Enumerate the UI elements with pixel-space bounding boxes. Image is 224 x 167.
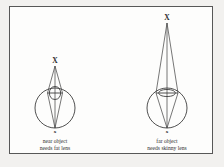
far-ray-incident-right [167,23,178,93]
optics-diagram: X x near object [0,0,224,167]
far-caption-line-2: needs skinny lens [147,145,186,151]
near-object-panel: X x near object [35,56,75,151]
near-image-label: x [54,129,57,134]
near-caption-line-1: near object [43,138,68,144]
figure-root: X x near object [0,0,224,167]
far-image-label: x [166,129,169,134]
near-refracted-rays [48,93,63,128]
far-object-label: X [164,13,170,22]
far-incident-rays [156,23,178,93]
far-object-panel: X x far object [147,13,187,151]
far-ray-refracted-left [156,93,167,128]
near-caption-line-2: needs fat lens [40,145,70,151]
far-ray-incident-left [156,23,167,93]
far-ray-refracted-right [167,93,178,128]
far-refracted-rays [156,93,178,128]
far-caption-line-1: far object [156,138,178,144]
near-object-label: X [52,56,58,65]
